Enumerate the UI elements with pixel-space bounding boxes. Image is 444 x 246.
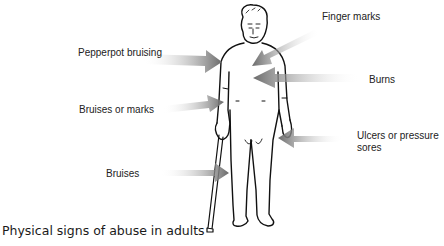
arrow-burns <box>253 67 360 88</box>
label-pepperpot-bruising: Pepperpot bruising <box>78 47 162 59</box>
body-diagram <box>0 0 444 246</box>
arrow-ulcers <box>278 128 343 148</box>
walking-stick <box>207 135 223 232</box>
label-ulcers-line1: Ulcers or pressure <box>357 130 439 142</box>
person-figure <box>207 5 292 232</box>
label-bruises-or-marks: Bruises or marks <box>79 104 154 116</box>
arrow-finger-marks <box>252 30 320 66</box>
label-bruises: Bruises <box>106 168 139 180</box>
figure-caption: Physical signs of abuse in adults <box>2 223 205 238</box>
label-ulcers-line2: sores <box>357 142 381 154</box>
label-finger-marks: Finger marks <box>322 11 380 23</box>
head-outline <box>242 5 268 43</box>
arrow-bruises-or-marks <box>163 95 224 113</box>
label-burns: Burns <box>369 74 395 86</box>
arrow-bruises <box>160 163 229 182</box>
